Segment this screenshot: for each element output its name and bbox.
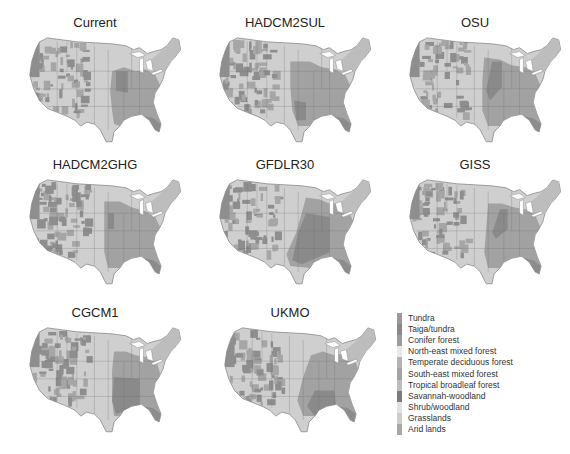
legend-label: South-east mixed forest: [408, 369, 498, 380]
legend-item-tropical-broadleaf-forest: Tropical broadleaf forest: [397, 380, 513, 391]
panel-title: GFDLR30: [190, 157, 380, 172]
map-panel-osu: OSU: [380, 0, 570, 150]
panel-title: UKMO: [195, 305, 385, 320]
panel-title: OSU: [380, 15, 570, 30]
legend-item-north-east-mixed-forest: North-east mixed forest: [397, 346, 513, 357]
legend-swatch: [397, 346, 402, 357]
us-vegetation-map: [0, 30, 190, 150]
legend-swatch: [397, 391, 402, 402]
panel-title: Current: [0, 15, 190, 30]
us-vegetation-map: [0, 320, 190, 440]
map-panel-ukmo: UKMO: [195, 290, 385, 440]
legend-label: Savannah-woodland: [408, 391, 486, 402]
legend-swatch: [397, 368, 402, 379]
legend-item-savannah-woodland: Savannah-woodland: [397, 391, 513, 402]
us-vegetation-map: [190, 172, 380, 292]
legend-item-grasslands: Grasslands: [397, 413, 513, 424]
legend-swatch: [397, 324, 402, 335]
legend-swatch: [397, 402, 402, 413]
legend-label: Tropical broadleaf forest: [408, 380, 499, 391]
legend-label: Temperate deciduous forest: [408, 357, 513, 368]
panel-title: HADCM2SUL: [190, 15, 380, 30]
legend-swatch: [397, 424, 402, 435]
panel-title: HADCM2GHG: [0, 157, 190, 172]
map-panel-gfdlr30: GFDLR30: [190, 142, 380, 292]
legend-item-conifer-forest: Conifer forest: [397, 335, 513, 346]
legend-label: North-east mixed forest: [408, 346, 496, 357]
panel-title: GISS: [380, 157, 570, 172]
legend-label: Taiga/tundra: [408, 324, 455, 335]
legend-label: Conifer forest: [408, 335, 459, 346]
map-panel-giss: GISS: [380, 142, 570, 292]
legend-item-tundra: Tundra: [397, 313, 513, 324]
us-vegetation-map: [380, 30, 570, 150]
legend-label: Arid lands: [408, 424, 446, 435]
legend-item-shrub-woodland: Shrub/woodland: [397, 402, 513, 413]
legend-swatch: [397, 357, 402, 368]
legend-swatch: [397, 313, 402, 324]
vegetation-legend: Tundra Taiga/tundra Conifer forest North…: [397, 313, 513, 435]
legend-swatch: [397, 335, 402, 346]
us-vegetation-map: [0, 172, 190, 292]
map-panel-hadcm2sul: HADCM2SUL: [190, 0, 380, 150]
legend-label: Grasslands: [408, 413, 451, 424]
map-panel-cgcm1: CGCM1: [0, 290, 190, 440]
legend-swatch: [397, 380, 402, 391]
map-panel-current: Current: [0, 0, 190, 150]
legend-item-arid-lands: Arid lands: [397, 424, 513, 435]
us-vegetation-map: [380, 172, 570, 292]
legend-label: Tundra: [408, 313, 435, 324]
map-panel-hadcm2ghg: HADCM2GHG: [0, 142, 190, 292]
us-vegetation-map: [190, 30, 380, 150]
legend-label: Shrub/woodland: [408, 402, 469, 413]
us-vegetation-map: [195, 320, 385, 440]
legend-item-south-east-mixed-forest: South-east mixed forest: [397, 368, 513, 379]
legend-swatch: [397, 413, 402, 424]
panel-title: CGCM1: [0, 305, 190, 320]
legend-item-taiga-tundra: Taiga/tundra: [397, 324, 513, 335]
legend-item-temperate-deciduous-forest: Temperate deciduous forest: [397, 357, 513, 368]
